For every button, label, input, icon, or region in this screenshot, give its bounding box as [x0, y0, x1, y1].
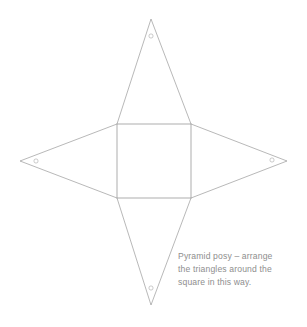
- caption-line-1: Pyramid posy – arrange: [178, 250, 300, 263]
- left-apex-marker-icon: [34, 159, 38, 163]
- top-triangle-edges: [117, 19, 191, 124]
- caption-line-2: the triangles around the: [178, 263, 300, 276]
- caption: Pyramid posy – arrange the triangles aro…: [178, 250, 300, 290]
- right-triangle-edges: [191, 124, 287, 198]
- right-apex-marker-icon: [270, 158, 274, 162]
- central-square: [117, 124, 191, 198]
- top-apex-marker-icon: [149, 34, 153, 38]
- left-triangle-edges: [20, 124, 117, 198]
- top-triangle: [117, 19, 191, 124]
- bottom-apex-marker-icon: [149, 286, 153, 290]
- pyramid-net-diagram: Pyramid posy – arrange the triangles aro…: [0, 0, 307, 327]
- right-triangle: [191, 124, 287, 198]
- caption-line-3: square in this way.: [178, 276, 300, 289]
- left-triangle: [20, 124, 117, 198]
